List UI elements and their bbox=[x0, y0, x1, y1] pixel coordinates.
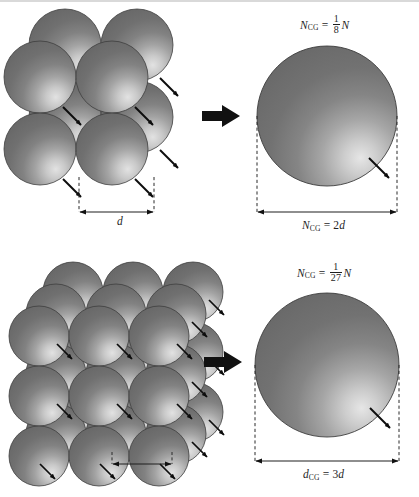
sphere bbox=[9, 426, 69, 486]
sphere bbox=[129, 366, 189, 426]
orientation-arrow bbox=[135, 179, 153, 197]
sphere bbox=[9, 306, 69, 366]
figure-root: NCG = 18N NCG = 2d NCG = 127N dCG = 3d d… bbox=[0, 0, 419, 497]
sphere bbox=[4, 41, 76, 113]
orientation-arrow bbox=[160, 150, 178, 168]
figure-canvas bbox=[0, 0, 419, 497]
sphere bbox=[129, 426, 189, 486]
sphere bbox=[4, 113, 76, 185]
sphere bbox=[9, 366, 69, 426]
sphere bbox=[69, 426, 129, 486]
cluster-front-layer-row2 bbox=[9, 306, 189, 486]
cluster-3x3x3 bbox=[9, 262, 224, 486]
sphere bbox=[76, 41, 148, 113]
sphere bbox=[69, 306, 129, 366]
cluster-2x2x2 bbox=[4, 9, 178, 212]
sphere bbox=[129, 306, 189, 366]
sphere bbox=[76, 113, 148, 185]
transition-arrow-row1 bbox=[202, 105, 240, 127]
coarse-grained-bead-1 bbox=[257, 46, 397, 212]
coarse-grained-bead-2 bbox=[255, 293, 399, 461]
orientation-arrow bbox=[63, 179, 81, 197]
sphere bbox=[69, 366, 129, 426]
right-arrow-icon bbox=[202, 105, 240, 127]
